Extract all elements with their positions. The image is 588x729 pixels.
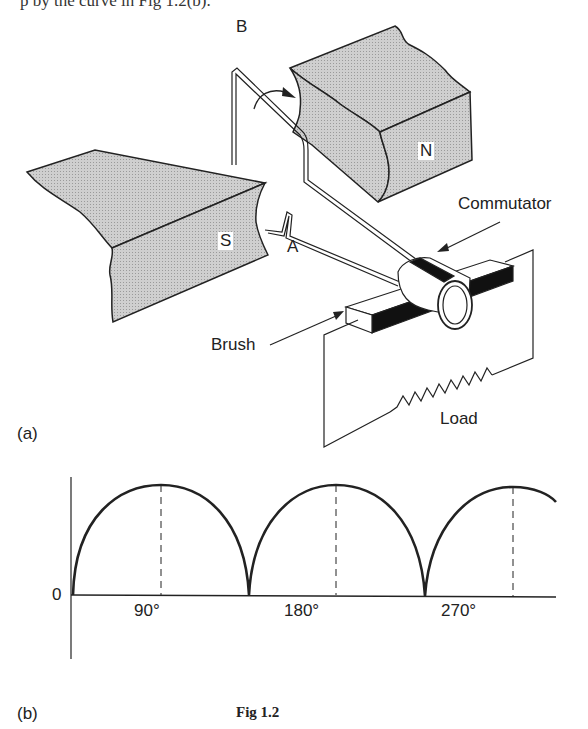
output-graph	[71, 477, 556, 659]
brush-arrowhead	[333, 311, 344, 320]
tick-label-180: 180°	[284, 601, 319, 621]
coil-side-a-label: A	[287, 237, 298, 257]
panel-a-label: (a)	[17, 424, 38, 444]
commutator-arrowhead	[437, 243, 449, 252]
north-pole-block	[290, 26, 472, 202]
figure-caption: Fig 1.2	[236, 704, 279, 721]
south-pole-label: S	[218, 232, 233, 250]
commutator-pointer	[445, 222, 500, 249]
rotation-arrowhead	[282, 87, 296, 98]
brush-label: Brush	[211, 335, 255, 355]
rectified-waveform	[73, 485, 556, 596]
brush-pointer	[270, 316, 336, 345]
panel-b-label: (b)	[17, 704, 38, 724]
origin-label: 0	[52, 585, 61, 605]
x-axis	[71, 595, 556, 597]
tick-label-90: 90°	[134, 601, 160, 621]
coil-side-b-label: B	[236, 17, 247, 37]
load-label: Load	[440, 409, 478, 429]
tick-label-270: 270°	[441, 601, 476, 621]
commutator-label: Commutator	[458, 194, 552, 214]
north-pole-label: N	[418, 142, 434, 160]
